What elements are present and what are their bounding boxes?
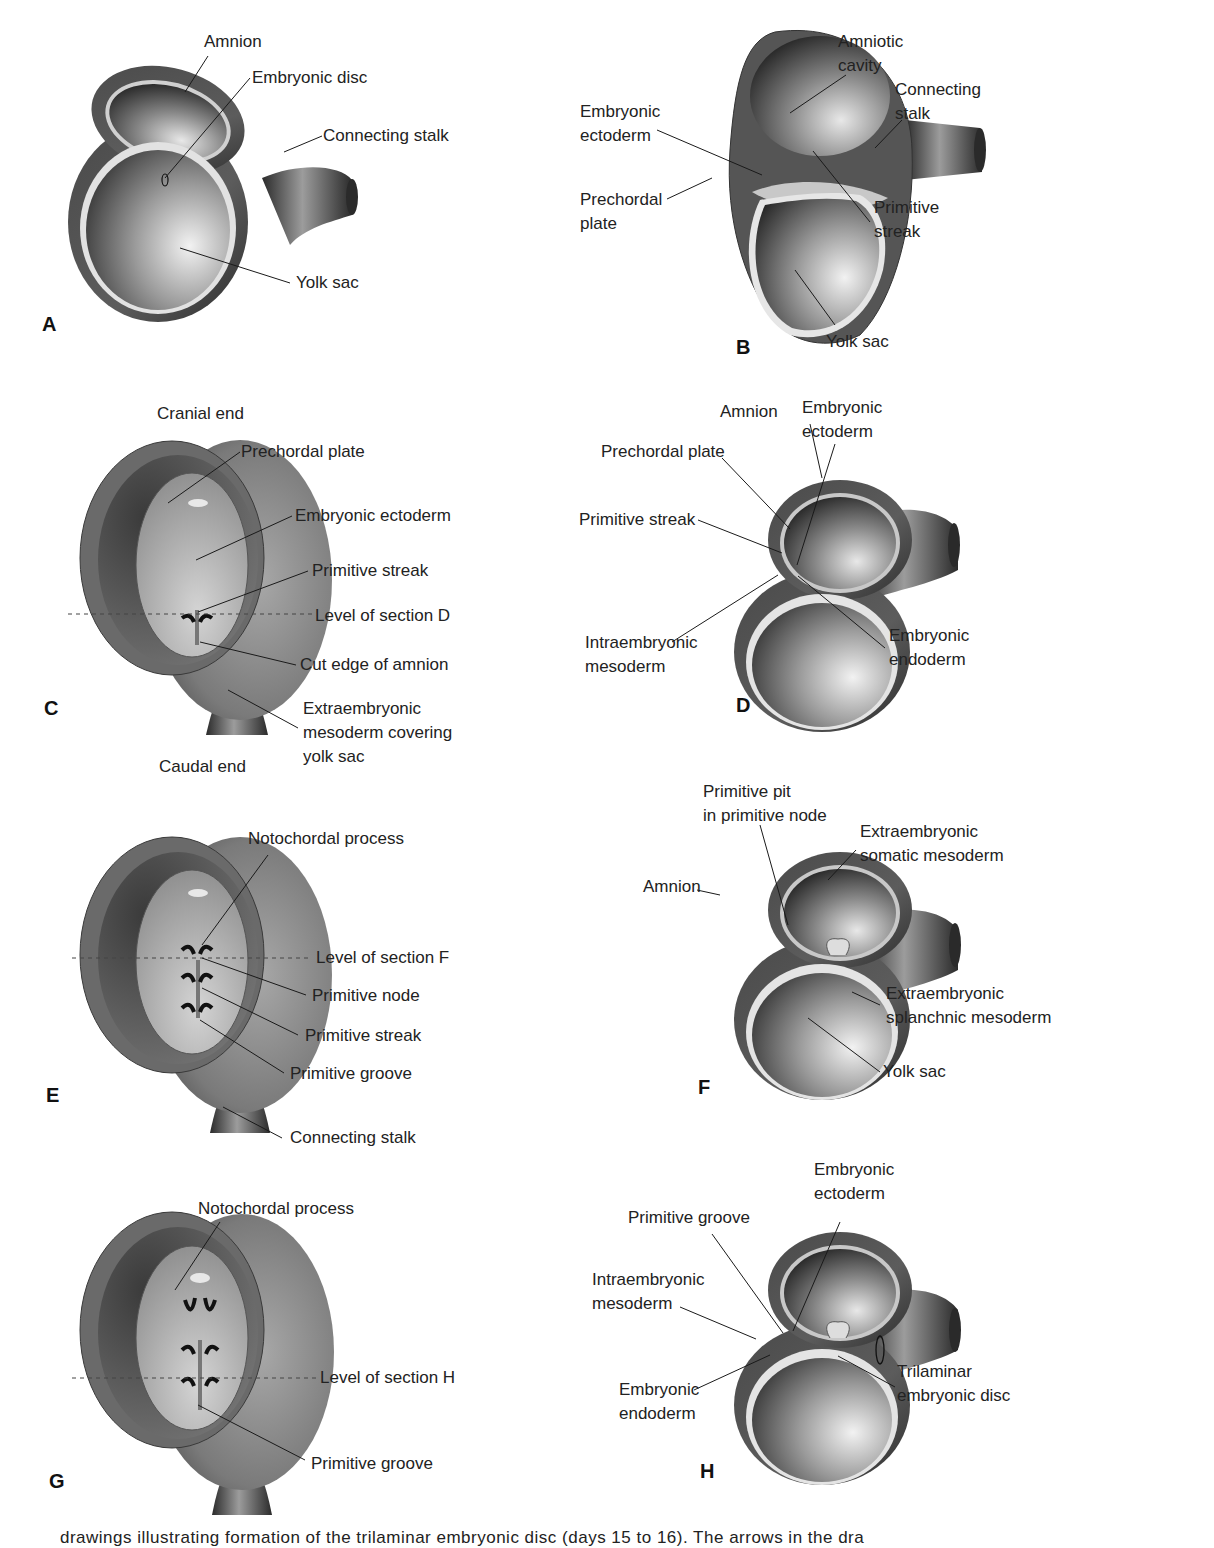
label-a-connecting-stalk: Connecting stalk — [323, 124, 449, 148]
label-g-level-of-section-h: Level of section H — [320, 1366, 455, 1390]
label-e-primitive-streak: Primitive streak — [305, 1024, 421, 1048]
label-b-connecting-stalk: Connecting stalk — [895, 78, 981, 126]
label-c-cranial-end: Cranial end — [157, 402, 244, 426]
label-g-notochordal-process: Notochordal process — [198, 1197, 354, 1221]
label-c-extraembryonic-mesoderm: Extraembryonic mesoderm covering yolk sa… — [303, 697, 452, 769]
label-d-intraembryonic-mesoderm: Intraembryonic mesoderm — [585, 631, 697, 679]
label-f-extraembryonic-splanchnic-mesoderm: Extraembryonic splanchnic mesoderm — [886, 982, 1051, 1030]
label-g-primitive-groove: Primitive groove — [311, 1452, 433, 1476]
label-e-notochordal-process: Notochordal process — [248, 827, 404, 851]
label-b-primitive-streak: Primitive streak — [874, 196, 939, 244]
label-d-primitive-streak: Primitive streak — [579, 508, 695, 532]
label-d-embryonic-endoderm: Embryonic endoderm — [889, 624, 969, 672]
label-c-primitive-streak: Primitive streak — [312, 559, 428, 583]
label-h-embryonic-ectoderm: Embryonic ectoderm — [814, 1158, 894, 1206]
label-a-yolk-sac: Yolk sac — [296, 271, 359, 295]
label-c-prechordal-plate: Prechordal plate — [241, 440, 365, 464]
panel-letter-h: H — [700, 1460, 714, 1483]
label-f-amnion: Amnion — [643, 875, 701, 899]
label-h-embryonic-endoderm: Embryonic endoderm — [619, 1378, 699, 1426]
panel-h-drawing — [734, 1232, 961, 1485]
label-e-primitive-groove: Primitive groove — [290, 1062, 412, 1086]
label-e-connecting-stalk: Connecting stalk — [290, 1126, 416, 1150]
label-a-embryonic-disc: Embryonic disc — [252, 66, 367, 90]
label-b-embryonic-ectoderm: Embryonic ectoderm — [580, 100, 660, 148]
label-c-embryonic-ectoderm: Embryonic ectoderm — [295, 504, 451, 528]
panel-letter-b: B — [736, 336, 750, 359]
label-e-primitive-node: Primitive node — [312, 984, 420, 1008]
label-f-primitive-pit: Primitive pit in primitive node — [703, 780, 827, 828]
panel-letter-g: G — [49, 1470, 65, 1493]
label-h-trilaminar-embryonic-disc: Trilaminar embryonic disc — [897, 1360, 1010, 1408]
label-e-level-of-section-f: Level of section F — [316, 946, 449, 970]
label-h-primitive-groove: Primitive groove — [628, 1206, 750, 1230]
label-a-amnion: Amnion — [204, 30, 262, 54]
label-c-level-of-section-d: Level of section D — [315, 604, 450, 628]
panel-c-drawing — [80, 440, 332, 735]
label-d-amnion: Amnion — [720, 400, 778, 424]
label-h-intraembryonic-mesoderm: Intraembryonic mesoderm — [592, 1268, 704, 1316]
panel-e-drawing — [80, 837, 332, 1133]
label-d-prechordal-plate: Prechordal plate — [601, 440, 725, 464]
label-b-amniotic-cavity: Amniotic cavity — [838, 30, 903, 78]
label-f-extraembryonic-somatic-mesoderm: Extraembryonic somatic mesoderm — [860, 820, 1004, 868]
label-c-caudal-end: Caudal end — [159, 755, 246, 779]
panel-letter-f: F — [698, 1076, 710, 1099]
panel-letter-a: A — [42, 313, 56, 336]
figure-caption: drawings illustrating formation of the t… — [60, 1528, 864, 1548]
panel-letter-d: D — [736, 694, 750, 717]
label-f-yolk-sac: Yolk sac — [883, 1060, 946, 1084]
label-d-embryonic-ectoderm: Embryonic ectoderm — [802, 396, 882, 444]
panel-d-drawing — [734, 480, 960, 732]
label-b-yolk-sac: Yolk sac — [826, 330, 889, 354]
panel-letter-e: E — [46, 1084, 59, 1107]
panel-letter-c: C — [44, 697, 58, 720]
label-c-cut-edge-of-amnion: Cut edge of amnion — [300, 653, 448, 677]
label-b-prechordal-plate: Prechordal plate — [580, 188, 662, 236]
panel-g-drawing — [80, 1212, 334, 1515]
